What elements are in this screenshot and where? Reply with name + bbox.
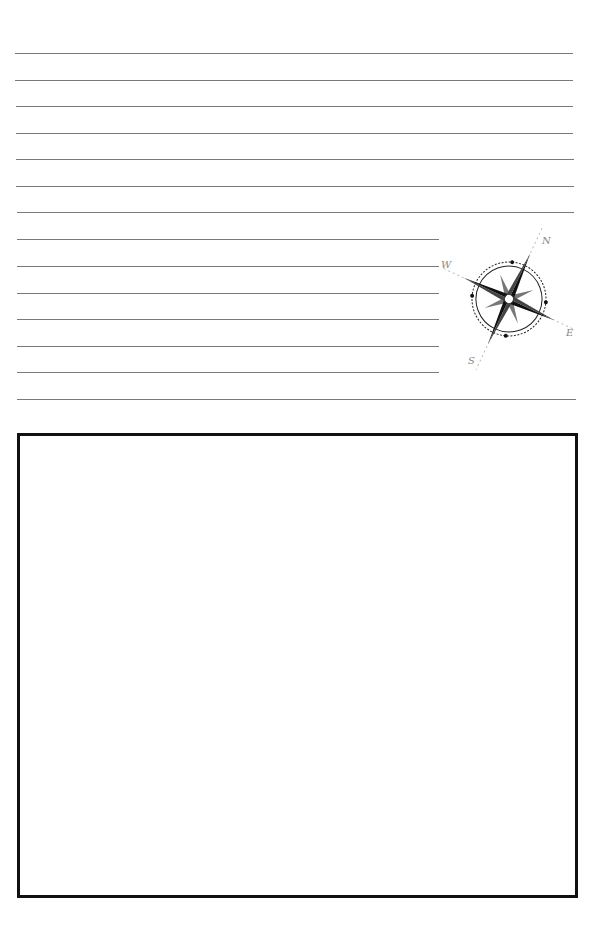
rule-full xyxy=(17,212,574,213)
rule-bottom xyxy=(17,399,576,400)
rule-short xyxy=(17,372,439,373)
rule-full xyxy=(15,80,573,81)
compass-label-north: N xyxy=(541,235,552,246)
compass-label-west: W xyxy=(441,259,452,270)
rule-short xyxy=(17,293,439,294)
rule-short xyxy=(17,346,439,347)
rule-short xyxy=(17,266,439,267)
rule-full xyxy=(16,106,573,107)
compass-label-east: E xyxy=(565,327,574,338)
drawing-box xyxy=(17,433,578,898)
rule-full xyxy=(16,133,573,134)
rule-short xyxy=(17,319,439,320)
rule-full xyxy=(16,186,574,187)
compass-rose-icon: N E S W xyxy=(430,222,590,376)
compass-label-south: S xyxy=(468,355,475,366)
rule-full xyxy=(15,53,573,54)
rule-full xyxy=(16,159,574,160)
rule-short xyxy=(17,239,439,240)
